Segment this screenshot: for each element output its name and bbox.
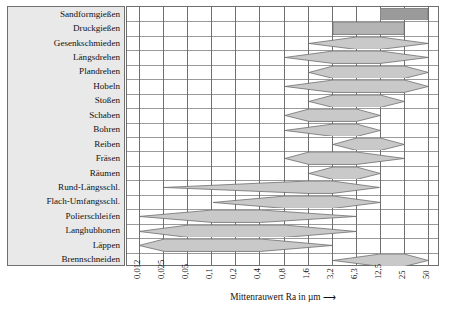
x-tick-0,4: 0,4 xyxy=(252,268,262,279)
range-band-15 xyxy=(139,210,356,222)
x-tick-0,05: 0,05 xyxy=(180,264,190,279)
range-band-8 xyxy=(285,109,380,121)
process-label-12: Räumen xyxy=(8,168,120,178)
process-label-1: Sandformgießen xyxy=(8,9,120,19)
x-tick-0,1: 0,1 xyxy=(204,268,214,279)
gridline-50 xyxy=(428,7,429,265)
x-tick-0,025: 0,025 xyxy=(156,260,166,279)
process-label-11: Fräsen xyxy=(8,153,120,163)
x-axis-arrow-icon: ⟶ xyxy=(323,292,335,302)
row-separator xyxy=(127,108,438,109)
range-band-13 xyxy=(164,181,379,193)
process-label-14: Flach-Umfangsschl. xyxy=(8,196,120,206)
process-label-9: Bohren xyxy=(8,124,120,134)
range-band-1 xyxy=(380,8,428,20)
x-tick-3,2: 3,2 xyxy=(325,268,335,279)
x-tick-6,3: 6,3 xyxy=(349,268,359,279)
process-label-6: Hobeln xyxy=(8,81,120,91)
range-band-17 xyxy=(139,239,333,251)
range-band-6 xyxy=(285,80,428,92)
x-tick-0,2: 0,2 xyxy=(228,268,238,279)
range-band-11 xyxy=(285,152,404,164)
x-tick-1,6: 1,6 xyxy=(301,268,311,279)
process-label-18: Brennschneiden xyxy=(8,254,120,264)
x-tick-50: 50 xyxy=(421,270,431,279)
process-label-8: Schaben xyxy=(8,110,120,120)
process-label-15: Polierschleifen xyxy=(8,211,120,221)
row-separator xyxy=(127,123,438,124)
process-label-13: Rund-Längsschl. xyxy=(8,182,120,192)
range-band-9 xyxy=(285,124,380,136)
process-label-10: Reiben xyxy=(8,139,120,149)
process-label-16: Langhubhonen xyxy=(8,225,120,235)
range-band-3 xyxy=(309,37,428,49)
range-band-2 xyxy=(333,22,404,34)
range-band-5 xyxy=(309,66,428,78)
plot-area xyxy=(126,6,439,266)
range-band-14 xyxy=(213,196,380,208)
roughness-chart: SandformgießenDruckgießenGesenkschmieden… xyxy=(0,0,453,309)
process-label-3: Gesenkschmieden xyxy=(8,38,120,48)
x-axis-title: Mittenrauwert Ra in µm ⟶ xyxy=(126,291,439,302)
range-band-12 xyxy=(309,167,380,179)
range-band-4 xyxy=(285,51,428,63)
x-tick-0,012: 0,012 xyxy=(132,260,142,279)
process-label-17: Läppen xyxy=(8,240,120,250)
range-band-10 xyxy=(333,138,404,150)
range-band-7 xyxy=(309,95,404,107)
row-separator xyxy=(127,166,438,167)
process-label-panel: SandformgießenDruckgießenGesenkschmieden… xyxy=(7,6,125,266)
process-label-4: Längsdrehen xyxy=(8,52,120,62)
process-label-5: Plandrehen xyxy=(8,66,120,76)
range-band-16 xyxy=(139,225,356,237)
process-label-2: Druckgießen xyxy=(8,23,120,33)
process-label-7: Stoßen xyxy=(8,95,120,105)
x-tick-25: 25 xyxy=(397,270,407,279)
x-tick-0,8: 0,8 xyxy=(277,268,287,279)
x-axis-title-text: Mittenrauwert Ra in µm xyxy=(230,292,320,302)
x-tick-12,5: 12,5 xyxy=(373,264,383,279)
